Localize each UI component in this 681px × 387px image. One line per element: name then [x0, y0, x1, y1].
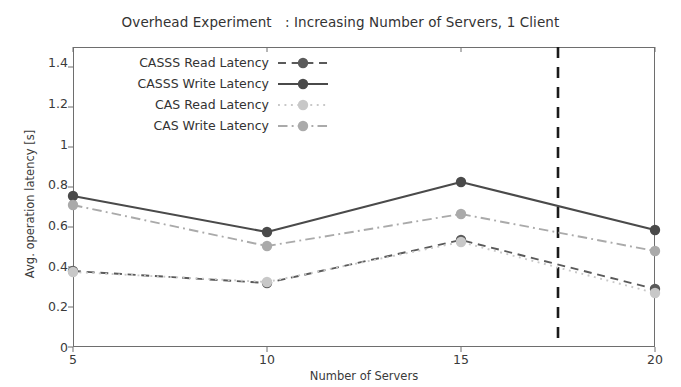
chart-title: Overhead Experiment : Increasing Number …: [0, 14, 681, 30]
y-tick-label: 0.4: [34, 258, 68, 273]
y-tick-label: 0: [34, 340, 68, 355]
legend-label: CAS Read Latency: [155, 97, 269, 112]
legend-item[interactable]: CAS Read Latency: [84, 94, 329, 115]
legend-item[interactable]: CAS Write Latency: [84, 115, 329, 136]
chart-legend: CASSS Read Latency CASSS Write Latency C…: [84, 52, 329, 136]
x-tick-label: 10: [259, 352, 275, 367]
legend-line-sample: [277, 117, 329, 135]
x-tick-label: 5: [69, 352, 77, 367]
legend-item[interactable]: CASSS Read Latency: [84, 52, 329, 73]
legend-label: CASSS Read Latency: [139, 55, 269, 70]
legend-label: CASSS Write Latency: [138, 76, 269, 91]
x-axis-label: Number of Servers: [73, 369, 655, 383]
x-tick-label: 20: [647, 352, 663, 367]
y-tick-label: 0.2: [34, 299, 68, 314]
y-tick-label: 1: [34, 136, 68, 151]
legend-line-sample: [277, 54, 329, 72]
y-tick-label: 1.4: [34, 55, 68, 70]
chart-figure: Overhead Experiment : Increasing Number …: [0, 0, 681, 387]
y-tick-label: 0.6: [34, 218, 68, 233]
y-tick-label: 1.2: [34, 96, 68, 111]
legend-item[interactable]: CASSS Write Latency: [84, 73, 329, 94]
y-tick-label: 0.8: [34, 177, 68, 192]
legend-line-sample: [277, 75, 329, 93]
x-tick-label: 15: [453, 352, 469, 367]
legend-line-sample: [277, 96, 329, 114]
y-axis-label: Avg. operation latency [s]: [23, 104, 37, 304]
legend-label: CAS Write Latency: [153, 118, 269, 133]
